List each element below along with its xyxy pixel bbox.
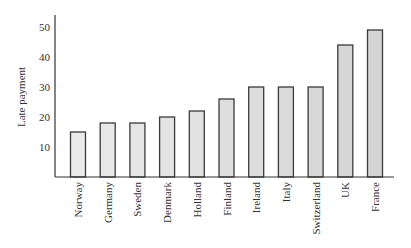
bar-switzerland [308, 87, 323, 177]
bar-ireland [249, 87, 264, 177]
x-tick-label: UK [339, 182, 351, 198]
y-tick-label: 50 [39, 21, 51, 33]
bar-italy [278, 87, 293, 177]
y-tick-label: 20 [39, 111, 51, 123]
bar-uk [338, 45, 353, 177]
bar-denmark [160, 117, 175, 177]
x-tick-label: Germany [102, 182, 114, 223]
x-tick-label: France [369, 182, 381, 212]
x-tick-label: Norway [72, 182, 84, 218]
y-tick-label: 10 [39, 141, 51, 153]
x-tick-label: Switzerland [310, 182, 322, 235]
y-tick-label: 40 [39, 51, 51, 63]
bar-chart: Late payment 1020304050 NorwayGermanySwe… [0, 0, 411, 248]
bar-norway [71, 132, 86, 177]
bar-germany [100, 123, 115, 177]
x-tick-label: Finland [221, 182, 233, 216]
x-axis-labels: NorwayGermanySwedenDenmarkHollandFinland… [72, 182, 381, 235]
x-tick-label: Denmark [161, 182, 173, 223]
bar-finland [219, 99, 234, 177]
bar-france [368, 30, 383, 177]
y-axis-ticks: 1020304050 [39, 21, 51, 153]
x-tick-label: Holland [191, 182, 203, 218]
bars [71, 30, 383, 177]
x-tick-label: Ireland [250, 182, 262, 214]
y-axis-label: Late payment [15, 67, 27, 127]
bar-sweden [130, 123, 145, 177]
y-axis-title: Late payment [15, 67, 27, 127]
bar-holland [189, 111, 204, 177]
x-tick-label: Italy [280, 182, 292, 203]
x-tick-label: Sweden [131, 182, 143, 217]
y-tick-label: 30 [39, 81, 51, 93]
